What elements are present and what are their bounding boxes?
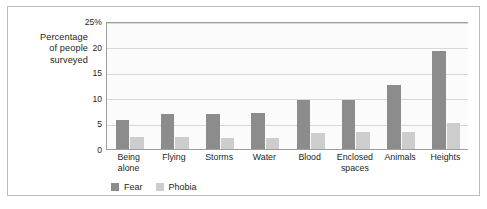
x-category-label: Water	[242, 152, 287, 163]
bar-phobia	[175, 137, 189, 149]
legend-swatch-icon	[111, 183, 119, 191]
x-category-label-line: Storms	[197, 152, 242, 163]
legend-item-fear[interactable]: Fear	[111, 182, 143, 192]
bar-phobia	[266, 138, 280, 149]
bar-fear	[116, 120, 130, 149]
x-category-label-line: Being	[106, 152, 151, 163]
x-category-label-line: Flying	[151, 152, 196, 163]
x-category-label-line: Heights	[423, 152, 468, 163]
x-category-label: Storms	[197, 152, 242, 163]
y-tick-label-5: 5	[72, 119, 102, 129]
bar-fear	[206, 114, 220, 149]
bar-group	[107, 23, 152, 149]
bar-group	[424, 23, 469, 149]
x-category-label: Flying	[151, 152, 196, 163]
bar-group	[288, 23, 333, 149]
y-tick-label-20: 20	[72, 43, 102, 53]
x-category-label: Heights	[423, 152, 468, 163]
y-axis-tick-labels: 0510152025%	[68, 22, 102, 150]
y-tick-label-10: 10	[72, 94, 102, 104]
bar-fear	[161, 114, 175, 149]
x-category-label-line: Blood	[287, 152, 332, 163]
legend-item-phobia[interactable]: Phobia	[156, 182, 197, 192]
bar-group	[243, 23, 288, 149]
plot-area-wrapper	[106, 22, 468, 150]
bar-fear	[432, 51, 446, 149]
x-axis-category-labels: BeingaloneFlyingStormsWaterBloodEnclosed…	[106, 152, 468, 176]
x-category-label-line: Water	[242, 152, 287, 163]
plot-area	[106, 22, 468, 150]
chart-legend: FearPhobia	[111, 182, 197, 192]
legend-swatch-icon	[156, 183, 164, 191]
bar-phobia	[356, 132, 370, 149]
x-category-label: Animals	[378, 152, 423, 163]
x-category-label-line: Animals	[378, 152, 423, 163]
legend-label: Fear	[124, 182, 143, 192]
bar-group	[333, 23, 378, 149]
x-category-label: Beingalone	[106, 152, 151, 173]
legend-label: Phobia	[169, 182, 197, 192]
bar-phobia	[221, 138, 235, 149]
x-category-label-line: Enclosed	[332, 152, 377, 163]
x-category-label: Enclosedspaces	[332, 152, 377, 173]
bar-phobia	[130, 137, 144, 149]
bar-fear	[342, 100, 356, 149]
y-tick-label-25pct: 25%	[72, 17, 102, 27]
x-category-label-line: spaces	[332, 163, 377, 174]
bar-fear	[387, 85, 401, 149]
bar-fear	[297, 100, 311, 149]
bar-fear	[251, 113, 265, 149]
chart-figure: Percentage of people surveyed 0510152025…	[0, 0, 487, 209]
bar-group	[379, 23, 424, 149]
x-category-label-line: alone	[106, 163, 151, 174]
y-tick-label-0: 0	[72, 145, 102, 155]
bar-phobia	[311, 133, 325, 149]
bar-group	[152, 23, 197, 149]
bar-group	[198, 23, 243, 149]
bar-phobia	[447, 123, 461, 149]
bar-phobia	[402, 132, 416, 149]
x-category-label: Blood	[287, 152, 332, 163]
y-tick-label-15: 15	[72, 68, 102, 78]
